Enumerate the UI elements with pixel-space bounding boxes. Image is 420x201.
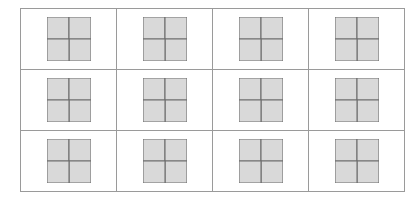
cell-content (213, 9, 308, 69)
pinwheel-grid-body (21, 9, 405, 192)
grid-row (21, 9, 405, 70)
grid-cell-1-1 (21, 9, 117, 70)
pinwheel-blade (165, 100, 187, 122)
pinwheel-r2c3 (239, 78, 283, 122)
pinwheel-blade-group (143, 78, 187, 122)
cell-content (309, 9, 404, 69)
pinwheel-r1c3 (239, 17, 283, 61)
grid-cell-3-1 (21, 131, 117, 192)
pinwheel-blade-group (143, 139, 187, 183)
pinwheel-blade (143, 161, 165, 183)
pinwheel-blade (239, 100, 261, 122)
cell-content (309, 131, 404, 191)
pinwheel-grid-figure (0, 0, 420, 201)
pinwheel-blade-group (47, 139, 91, 183)
grid-row (21, 70, 405, 131)
cell-content (309, 70, 404, 130)
pinwheel-blade (143, 39, 165, 61)
cell-content (117, 131, 212, 191)
pinwheel-blade (357, 139, 379, 161)
pinwheel-blade (143, 78, 165, 100)
pinwheel-r3c1 (47, 139, 91, 183)
pinwheel-blade (357, 39, 379, 61)
pinwheel-blade (335, 161, 357, 183)
pinwheel-r2c4 (335, 78, 379, 122)
pinwheel-blade-group (239, 139, 283, 183)
pinwheel-grid-table (20, 8, 405, 192)
cell-content (213, 70, 308, 130)
cell-content (117, 9, 212, 69)
grid-cell-2-3 (213, 70, 309, 131)
pinwheel-blade-group (143, 17, 187, 61)
grid-cell-1-3 (213, 9, 309, 70)
cell-content (21, 131, 116, 191)
pinwheel-blade (47, 139, 69, 161)
pinwheel-blade (69, 17, 91, 39)
pinwheel-blade (357, 161, 379, 183)
pinwheel-r1c2 (143, 17, 187, 61)
pinwheel-blade (69, 78, 91, 100)
pinwheel-blade (261, 100, 283, 122)
pinwheel-blade (165, 39, 187, 61)
grid-cell-1-4 (309, 9, 405, 70)
pinwheel-blade (335, 39, 357, 61)
pinwheel-blade (261, 17, 283, 39)
pinwheel-blade (165, 17, 187, 39)
pinwheel-blade (239, 17, 261, 39)
pinwheel-blade (357, 78, 379, 100)
pinwheel-blade-group (47, 17, 91, 61)
cell-content (117, 70, 212, 130)
pinwheel-blade (239, 78, 261, 100)
pinwheel-blade (69, 139, 91, 161)
pinwheel-blade (335, 17, 357, 39)
pinwheel-blade (143, 139, 165, 161)
pinwheel-r1c1 (47, 17, 91, 61)
pinwheel-blade (69, 100, 91, 122)
pinwheel-blade (239, 39, 261, 61)
grid-cell-3-3 (213, 131, 309, 192)
pinwheel-r1c4 (335, 17, 379, 61)
pinwheel-blade (69, 39, 91, 61)
cell-content (213, 131, 308, 191)
pinwheel-blade (335, 139, 357, 161)
pinwheel-blade-group (239, 78, 283, 122)
pinwheel-blade (165, 78, 187, 100)
pinwheel-blade-group (47, 78, 91, 122)
pinwheel-blade (143, 17, 165, 39)
grid-cell-2-4 (309, 70, 405, 131)
pinwheel-r3c2 (143, 139, 187, 183)
grid-cell-2-1 (21, 70, 117, 131)
pinwheel-blade-group (335, 78, 379, 122)
pinwheel-blade (239, 161, 261, 183)
pinwheel-blade (335, 78, 357, 100)
pinwheel-blade (165, 161, 187, 183)
grid-cell-3-2 (117, 131, 213, 192)
pinwheel-blade (261, 78, 283, 100)
pinwheel-blade (47, 17, 69, 39)
pinwheel-r2c2 (143, 78, 187, 122)
grid-cell-1-2 (117, 9, 213, 70)
pinwheel-blade (239, 139, 261, 161)
pinwheel-blade (47, 161, 69, 183)
pinwheel-blade (357, 100, 379, 122)
grid-row (21, 131, 405, 192)
pinwheel-blade (261, 39, 283, 61)
pinwheel-blade-group (335, 17, 379, 61)
grid-cell-3-4 (309, 131, 405, 192)
cell-content (21, 70, 116, 130)
pinwheel-r3c4 (335, 139, 379, 183)
pinwheel-blade (47, 39, 69, 61)
pinwheel-blade-group (335, 139, 379, 183)
pinwheel-blade (143, 100, 165, 122)
pinwheel-blade (69, 161, 91, 183)
pinwheel-blade (261, 161, 283, 183)
pinwheel-blade (261, 139, 283, 161)
pinwheel-blade (165, 139, 187, 161)
pinwheel-blade-group (239, 17, 283, 61)
grid-cell-2-2 (117, 70, 213, 131)
pinwheel-blade (47, 100, 69, 122)
pinwheel-r2c1 (47, 78, 91, 122)
pinwheel-blade (335, 100, 357, 122)
pinwheel-blade (47, 78, 69, 100)
cell-content (21, 9, 116, 69)
